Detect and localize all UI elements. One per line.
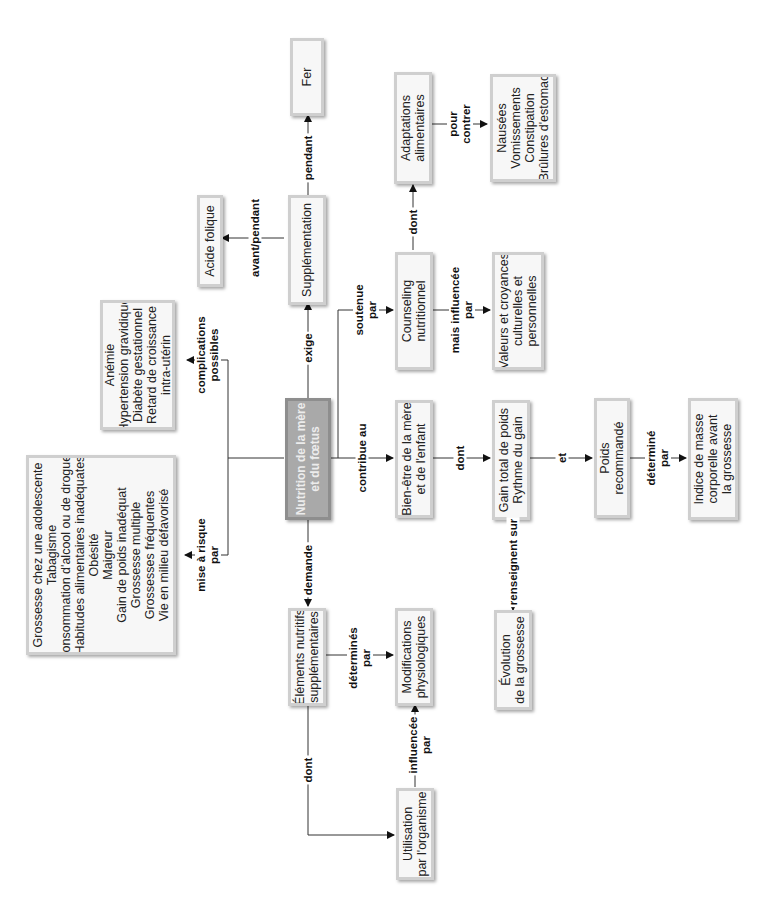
node-label-line: et de l'enfant [414, 402, 428, 515]
edge-label-dont-utilisation: dont [302, 756, 315, 785]
node-label-line: Nutrition de la mère [294, 403, 308, 516]
node-label-line: nutritionnel [414, 280, 428, 343]
node-label-line: Utilisation [401, 791, 415, 876]
node-label-line: Diabète gestationnel [131, 300, 145, 430]
node-label-line: supplémentaires [307, 609, 321, 705]
node-elements-nutritifs[interactable]: Éléments nutritifs supplémentaires [288, 608, 326, 706]
node-label-line: Grossesse chez une adolescente [31, 455, 45, 655]
node-nutrition-mere-foetus[interactable]: Nutrition de la mère et du fœtus [285, 398, 331, 520]
node-evolution-grossesse[interactable]: Évolution de la grossesse [494, 610, 532, 710]
node-label-line: de la grossesse [513, 616, 527, 704]
node-label-line: Grossesses fréquentes [143, 455, 157, 655]
edge-label-exige: exige [302, 331, 315, 364]
edge-label-demande: demande [302, 543, 315, 598]
node-label-line: Bien-être de la mère [400, 402, 414, 515]
node-label-line: alimentaires [413, 94, 427, 161]
node-label-line: Nausées [495, 75, 509, 182]
edge-label-contribue-au: contribue au [356, 421, 369, 494]
node-poids-recommande[interactable]: Poids recommandé [594, 398, 630, 518]
node-label-line: Vomissements [509, 75, 523, 182]
node-acide-folique[interactable]: Acide folique [197, 195, 223, 287]
edge-label-determine-par: déterminé par [645, 429, 671, 488]
node-gain-de-poids[interactable]: Gain total de poids Rythme du gain [492, 400, 530, 520]
node-label-line: Gain total de poids [497, 408, 511, 512]
node-label-line: Valeurs et croyances [497, 253, 511, 369]
edge-label-dont-adaptations: dont [407, 208, 420, 237]
node-label-line: intra-utérin [159, 300, 173, 430]
node-label-line: Adaptations [399, 94, 413, 161]
node-label-line: culturelles et [511, 253, 525, 369]
edge-label-dont-gain: dont [454, 444, 467, 473]
node-fer[interactable]: Fer [290, 38, 324, 116]
edge-label-avant-pendant: avant/pendant [249, 197, 262, 279]
node-bien-etre[interactable]: Bien-être de la mère et de l'enfant [395, 400, 433, 518]
edge-label-determines-par: déterminés par [347, 625, 373, 690]
edge-label-influencee-par: influencée par [407, 715, 433, 776]
node-label-line: Anémie [103, 300, 117, 430]
node-label-line: physiologiques [414, 616, 428, 699]
node-label: Supplémentation [300, 203, 314, 297]
node-label-line: par l'organisme [415, 791, 429, 876]
node-complications[interactable]: Anémie Hypertension gravidique Diabète g… [100, 300, 175, 430]
node-valeurs-croyances[interactable]: Valeurs et croyances culturelles et pers… [492, 252, 544, 370]
node-label-line: Gain de poids inadéquat [115, 455, 129, 655]
node-label-line: corporelle avant [706, 413, 720, 504]
concept-map: Nutrition de la mère et du fœtus Supplém… [0, 0, 764, 902]
edge-label-complications-possibles: complications possibles [195, 314, 221, 395]
node-label-line: Habitudes alimentaires inadéquates [73, 455, 87, 655]
node-label-line: Vie en milieu défavorisé [157, 455, 171, 655]
node-label-line: et du fœtus [308, 403, 322, 516]
node-supplementation[interactable]: Supplémentation [288, 195, 326, 305]
node-utilisation-organisme[interactable]: Utilisation par l'organisme [396, 788, 434, 880]
edge-label-soutenue-par: soutenue par [353, 282, 379, 337]
node-counseling-nutritionnel[interactable]: Counseling nutritionnel [395, 252, 433, 370]
node-label-line: Retard de croissance [145, 300, 159, 430]
edge-label-mise-a-risque: mise à risque par [195, 516, 221, 594]
node-indice-masse-corporelle[interactable]: Indice de masse corporelle avant la gros… [688, 398, 738, 520]
node-label-line: Counseling [400, 280, 414, 343]
node-label-line: recommandé [612, 422, 626, 495]
node-label: Acide folique [203, 205, 217, 277]
edge-label-pendant: pendant [302, 134, 315, 183]
node-label-line: Grossesse multiple [129, 455, 143, 655]
node-label-line: Poids [598, 422, 612, 495]
node-label-line: Tabagisme [45, 455, 59, 655]
node-label-line: la grossesse [720, 413, 734, 504]
node-symptomes[interactable]: Nausées Vomissements Constipation Brûlur… [490, 74, 556, 182]
edge-label-mais-influencee: mais influencée par [449, 265, 475, 355]
node-label-line: Maigreur [101, 455, 115, 655]
edge-label-renseignent-sur: renseignent sur [507, 517, 520, 607]
node-label-line: Éléments nutritifs [293, 609, 307, 705]
node-facteurs-de-risque[interactable]: Grossesse chez une adolescente Tabagisme… [26, 455, 176, 655]
node-adaptations-alimentaires[interactable]: Adaptations alimentaires [394, 72, 432, 184]
node-label: Fer [300, 68, 314, 87]
edge-label-pour-contrer: pour contrer [447, 102, 473, 146]
node-label-line: personnelles [525, 253, 539, 369]
node-label-line: Consommation d'alcool ou de drogues [59, 455, 73, 655]
node-label-line: Hypertension gravidique [117, 300, 131, 430]
node-modifications-physiologiques[interactable]: Modifications physiologiques [395, 608, 433, 706]
node-label-line: Rythme du gain [511, 408, 525, 512]
node-label-line: Évolution [499, 616, 513, 704]
node-label: Nutrition de la mère et du fœtus [294, 403, 322, 516]
node-label-line: Brûlures d'estomac [537, 75, 551, 182]
edge-label-et: et [556, 451, 569, 465]
node-label-line: Constipation [523, 75, 537, 182]
node-label-line: Obésité [87, 455, 101, 655]
node-label-line: Indice de masse [692, 413, 706, 504]
node-label-line: Modifications [400, 616, 414, 699]
